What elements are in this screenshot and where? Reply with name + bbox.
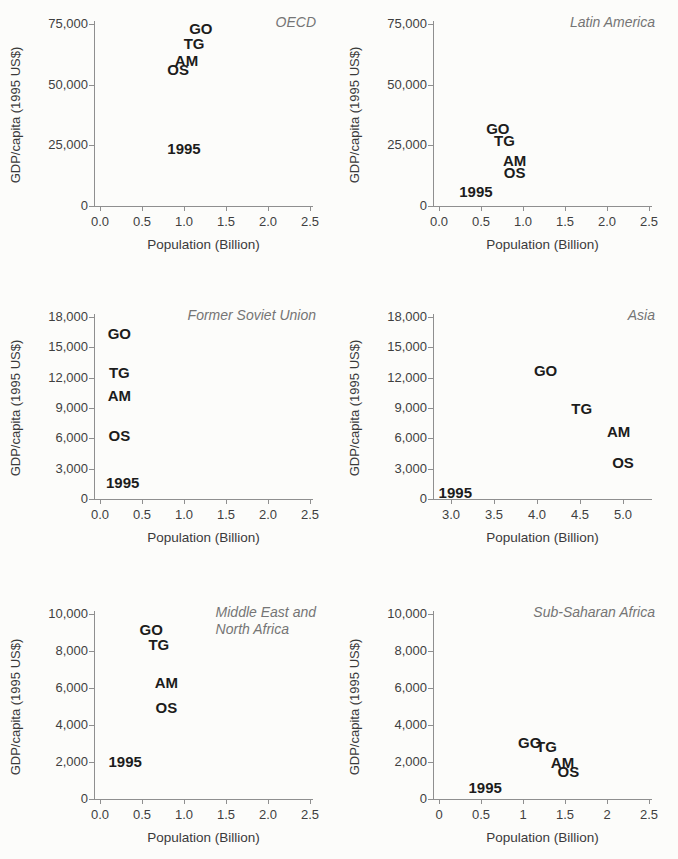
- y-axis-line: [94, 611, 95, 799]
- chart-former-soviet-union: GDP/capita (1995 US$)Former Soviet Union…: [0, 286, 339, 572]
- y-tick-mark: [89, 438, 94, 439]
- y-tick-mark: [89, 317, 94, 318]
- y-tick-mark: [428, 317, 433, 318]
- y-tick-label: 10,000: [28, 606, 88, 622]
- point-1995: 1995: [459, 183, 492, 200]
- x-tick-mark: [649, 800, 650, 804]
- x-tick-mark: [623, 500, 624, 504]
- y-tick-label: 0: [28, 491, 88, 507]
- chart-sub-saharan-africa: GDP/capita (1995 US$)Sub-Saharan Africa0…: [339, 572, 678, 859]
- x-tick-label: 1.0: [162, 507, 206, 523]
- y-axis-title: GDP/capita (1995 US$): [346, 5, 364, 225]
- y-tick-label: 12,000: [367, 370, 427, 386]
- y-tick-label: 0: [28, 198, 88, 214]
- y-tick-label: 8,000: [28, 643, 88, 659]
- scenario-scatter-figure: GDP/capita (1995 US$)OECD025,00050,00075…: [0, 0, 678, 859]
- x-tick-label: 0.5: [120, 507, 164, 523]
- y-tick-mark: [428, 408, 433, 409]
- x-axis-line: [94, 799, 313, 800]
- x-tick-mark: [523, 800, 524, 804]
- y-tick-mark: [89, 206, 94, 207]
- x-axis-title: Population (Billion): [119, 530, 289, 545]
- x-axis-line: [433, 799, 652, 800]
- x-tick-label: 0.5: [120, 214, 164, 230]
- point-tg: TG: [184, 35, 205, 52]
- point-os: OS: [108, 427, 130, 444]
- x-tick-label: 0.5: [459, 807, 503, 823]
- y-tick-label: 18,000: [28, 309, 88, 325]
- point-1995: 1995: [109, 753, 142, 770]
- x-axis-title: Population (Billion): [458, 237, 628, 252]
- y-tick-label: 75,000: [367, 16, 427, 32]
- y-tick-mark: [89, 651, 94, 652]
- y-tick-label: 75,000: [28, 16, 88, 32]
- point-os: OS: [612, 454, 634, 471]
- x-tick-mark: [226, 800, 227, 804]
- y-axis-title: GDP/capita (1995 US$): [7, 5, 25, 225]
- chart-oecd: GDP/capita (1995 US$)OECD025,00050,00075…: [0, 0, 339, 286]
- y-tick-label: 0: [367, 491, 427, 507]
- x-tick-mark: [310, 500, 311, 504]
- y-tick-mark: [428, 145, 433, 146]
- x-tick-mark: [100, 500, 101, 504]
- x-tick-mark: [184, 800, 185, 804]
- x-tick-label: 4.5: [558, 507, 602, 523]
- x-tick-mark: [226, 207, 227, 211]
- y-tick-mark: [89, 24, 94, 25]
- y-tick-label: 15,000: [367, 339, 427, 355]
- y-tick-mark: [428, 614, 433, 615]
- y-tick-label: 15,000: [28, 339, 88, 355]
- y-tick-mark: [428, 651, 433, 652]
- y-tick-label: 2,000: [28, 754, 88, 770]
- x-axis-line: [433, 206, 652, 207]
- y-tick-label: 25,000: [367, 137, 427, 153]
- x-tick-label: 2.0: [246, 214, 290, 230]
- x-tick-label: 2.0: [246, 507, 290, 523]
- y-tick-mark: [428, 206, 433, 207]
- y-tick-mark: [428, 347, 433, 348]
- x-tick-mark: [142, 207, 143, 211]
- x-tick-mark: [226, 500, 227, 504]
- point-am: AM: [108, 386, 131, 403]
- x-tick-label: 3.5: [472, 507, 516, 523]
- x-tick-label: 2: [585, 807, 629, 823]
- x-tick-label: 1.5: [543, 214, 587, 230]
- x-tick-mark: [100, 207, 101, 211]
- x-tick-label: 0.0: [78, 807, 122, 823]
- x-tick-mark: [537, 500, 538, 504]
- point-1995: 1995: [167, 139, 200, 156]
- x-tick-mark: [481, 800, 482, 804]
- x-tick-mark: [565, 800, 566, 804]
- x-tick-mark: [481, 207, 482, 211]
- point-1995: 1995: [439, 483, 472, 500]
- y-tick-mark: [89, 799, 94, 800]
- y-tick-mark: [89, 469, 94, 470]
- x-tick-mark: [439, 207, 440, 211]
- x-tick-mark: [494, 500, 495, 504]
- y-tick-label: 50,000: [367, 77, 427, 93]
- x-tick-mark: [451, 500, 452, 504]
- y-tick-mark: [428, 688, 433, 689]
- x-tick-mark: [184, 207, 185, 211]
- y-tick-mark: [89, 145, 94, 146]
- x-tick-label: 1.5: [204, 807, 248, 823]
- x-tick-label: 2.5: [288, 507, 332, 523]
- x-tick-mark: [607, 800, 608, 804]
- chart-latin-america: GDP/capita (1995 US$)Latin America025,00…: [339, 0, 678, 286]
- x-tick-label: 2.5: [627, 214, 671, 230]
- y-tick-mark: [428, 378, 433, 379]
- point-go: GO: [189, 19, 212, 36]
- point-tg: TG: [536, 738, 557, 755]
- y-tick-mark: [89, 614, 94, 615]
- y-axis-line: [94, 21, 95, 206]
- x-tick-label: 1.0: [501, 214, 545, 230]
- y-tick-label: 6,000: [367, 680, 427, 696]
- y-tick-mark: [428, 24, 433, 25]
- x-tick-label: 4.0: [515, 507, 559, 523]
- x-tick-mark: [184, 500, 185, 504]
- y-tick-mark: [428, 438, 433, 439]
- x-tick-label: 0.0: [417, 214, 461, 230]
- x-tick-mark: [268, 500, 269, 504]
- point-tg: TG: [109, 363, 130, 380]
- x-tick-label: 0.0: [78, 214, 122, 230]
